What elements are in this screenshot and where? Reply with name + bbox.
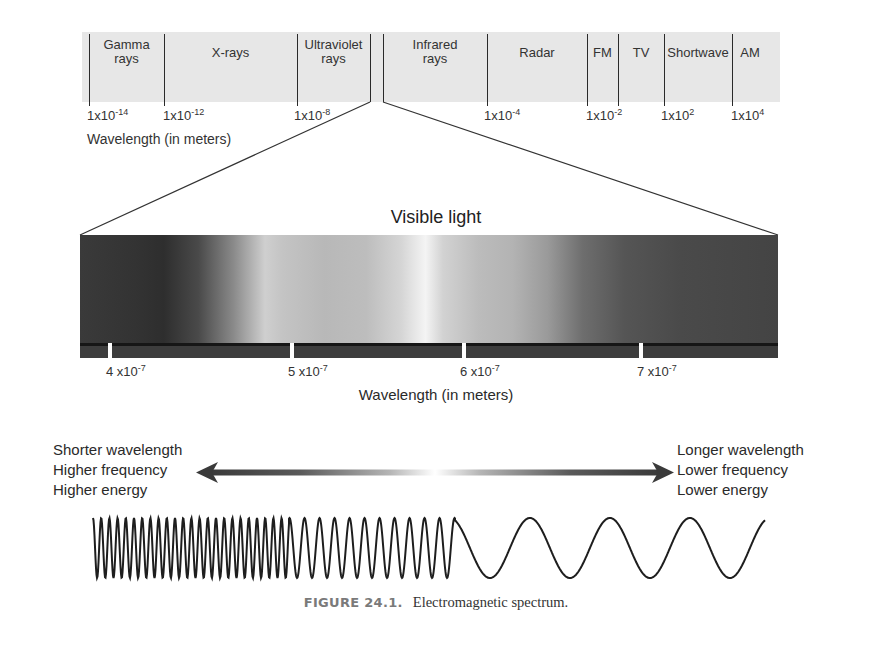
figure-title: Electromagnetic spectrum. bbox=[413, 594, 568, 610]
figure-caption: FIGURE 24.1. Electromagnetic spectrum. bbox=[0, 594, 872, 611]
figure-number: FIGURE 24.1. bbox=[304, 595, 403, 610]
frequency-wave bbox=[0, 0, 872, 645]
